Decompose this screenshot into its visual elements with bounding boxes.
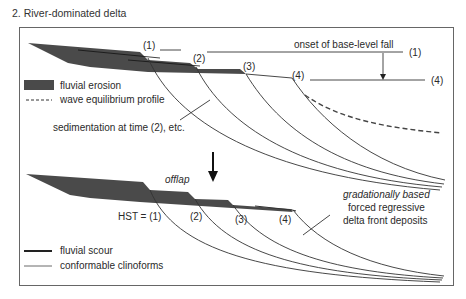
hst-label: HST = (1) xyxy=(118,211,161,222)
sedimentation-pointer xyxy=(180,100,210,120)
legend-clinoform-label: conformable clinoforms xyxy=(60,260,163,271)
legend-scour-label: fluvial scour xyxy=(60,245,113,256)
base-level-label-end: (4) xyxy=(431,75,443,86)
time-label-3: (3) xyxy=(243,61,255,72)
top-panel: (1) (2) (3) (4) (1) (4) onset of base-le… xyxy=(24,39,445,190)
bottom-time-label-3: (3) xyxy=(235,214,247,225)
base-level-fall-label: onset of base-level fall xyxy=(294,39,394,50)
deposit-label-line3: delta front deposits xyxy=(343,215,428,226)
transition-arrow-icon xyxy=(208,171,218,182)
bottom-time-label-2: (2) xyxy=(190,211,202,222)
offlap-label: offlap xyxy=(165,174,190,185)
time-label-1: (1) xyxy=(143,40,155,51)
legend-erosion-label: fluvial erosion xyxy=(60,80,121,91)
base-level-label-start: (1) xyxy=(409,47,421,58)
bottom-time-label-4: (4) xyxy=(279,214,291,225)
clinoform-4 xyxy=(292,78,445,180)
legend-erosion-swatch xyxy=(24,80,54,90)
delta-diagram: (1) (2) (3) (4) (1) (4) onset of base-le… xyxy=(0,0,466,299)
fluvial-erosion-band xyxy=(28,43,246,74)
time-label-2: (2) xyxy=(193,53,205,64)
deposit-label-line2: forced regressive xyxy=(348,202,425,213)
depositional-surface xyxy=(246,74,292,78)
legend-wave-label: wave equilibrium profile xyxy=(59,94,165,105)
sedimentation-label: sedimentation at time (2), etc. xyxy=(53,122,185,133)
bottom-panel: offlap HST = (1) (2) (3) (4) gradational… xyxy=(24,174,444,282)
deposit-label-line1: gradationally based xyxy=(343,189,430,200)
down-arrow-icon xyxy=(380,74,386,80)
time-label-4: (4) xyxy=(292,70,304,81)
wave-equilibrium-profile xyxy=(305,95,442,133)
clinoform-3 xyxy=(246,74,444,184)
